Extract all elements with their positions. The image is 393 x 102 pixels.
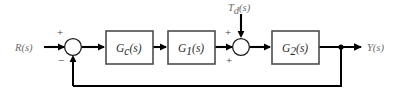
arrowhead-disturbance-into-junction	[238, 31, 245, 38]
disturbance-label-arg: (s)	[239, 2, 251, 14]
block-diagram-figure: Gc(s) G1(s) G2(s) R(s) Td(s) Y(s) + − + …	[0, 0, 393, 102]
arrowhead-into-disturbance-junction	[226, 44, 233, 51]
arrowhead-into-plant-1	[160, 44, 167, 51]
disturbance-summing-junction	[233, 39, 250, 56]
disturbance-junction-plus-sign-top: +	[225, 26, 231, 38]
output-label-arg: (s)	[373, 42, 385, 54]
plant-2-label-arg: (s)	[296, 42, 308, 55]
arrowhead-into-controller	[98, 44, 105, 51]
plant-1-label-arg: (s)	[192, 42, 204, 55]
error-junction-plus-sign: +	[57, 26, 63, 38]
error-junction-minus-sign: −	[58, 54, 64, 66]
reference-signal-label: R(s)	[14, 42, 33, 54]
block-diagram-canvas: Gc(s) G1(s) G2(s) R(s) Td(s) Y(s) + − + …	[0, 0, 393, 102]
error-summing-junction	[65, 39, 82, 56]
output-signal-label: Y(s)	[367, 42, 384, 54]
arrowhead-into-output	[354, 43, 362, 51]
reference-label-arg: (s)	[21, 42, 33, 54]
arrowhead-feedback-into-error-junction	[70, 55, 77, 62]
controller-label-arg: (s)	[129, 42, 141, 55]
disturbance-signal-label: Td(s)	[228, 2, 251, 16]
arrowhead-into-plant-2	[264, 44, 271, 51]
disturbance-junction-plus-sign-bottom: +	[226, 54, 232, 66]
